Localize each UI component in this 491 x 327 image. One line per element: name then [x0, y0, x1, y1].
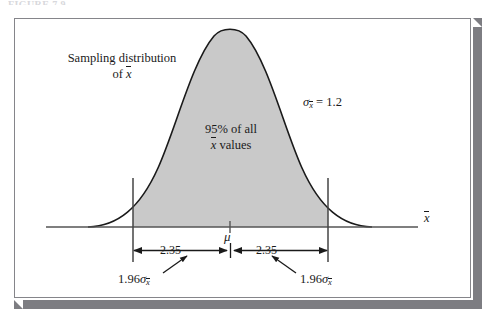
dimension-label-right: 2.35 [256, 243, 277, 258]
overbar [309, 101, 313, 102]
shaded-region-line2-suffix: values [216, 138, 251, 152]
x-axis-label: x [424, 211, 430, 226]
sigma-subscript-x-bar: x [146, 277, 150, 287]
overbar [126, 66, 131, 67]
margin-of-error-label-left: 1.96σx [118, 272, 150, 287]
sigma-value: = 1.2 [316, 95, 342, 109]
overbar [424, 211, 429, 212]
callout-leader-right [272, 256, 296, 273]
x-bar-glyph: x [424, 211, 430, 226]
coefficient: 1.96 [118, 272, 140, 286]
shaded-region-line1: 95% of all [205, 122, 257, 136]
overbar [211, 137, 216, 138]
figure-page: FIGURE 7.9 ... [0, 0, 491, 327]
sampling-distribution-line1: Sampling distribution [68, 51, 177, 65]
standard-error-label: σx = 1.2 [303, 95, 342, 110]
margin-of-error-label-right: 1.96σx [300, 272, 332, 287]
x-bar-glyph: x [211, 137, 217, 153]
sigma-subscript-x-bar: x [328, 277, 332, 287]
coefficient: 1.96 [300, 272, 322, 286]
overbar [328, 278, 332, 279]
overbar [146, 278, 150, 279]
x-bar-glyph: x [126, 66, 132, 82]
mean-label: μ [224, 229, 231, 245]
sampling-distribution-line2-prefix: of [112, 67, 126, 81]
shaded-region-label: 95% of all x values [177, 121, 285, 153]
callout-leader-left [163, 256, 187, 273]
sampling-distribution-label: Sampling distribution of x [56, 50, 188, 82]
dimension-label-left: 2.35 [160, 243, 181, 258]
sigma-subscript-x-bar: x [309, 100, 313, 110]
